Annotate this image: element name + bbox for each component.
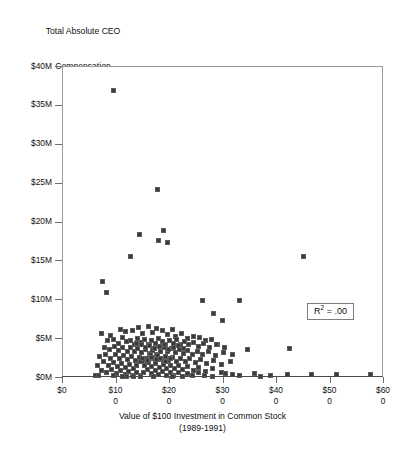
data-point [101, 359, 106, 364]
data-point [162, 342, 167, 347]
data-point [95, 363, 100, 368]
data-point [179, 331, 184, 336]
data-point [228, 359, 233, 364]
x-axis-tick-label-top: $60 [358, 385, 405, 396]
y-axis-tick-label: $40M [8, 62, 52, 71]
data-point [209, 337, 214, 342]
data-point [221, 350, 226, 355]
data-point [201, 341, 206, 346]
data-point [123, 329, 128, 334]
data-point [128, 254, 133, 259]
x-axis-tick-label-bottom: 0 [91, 396, 141, 407]
data-point [103, 352, 108, 357]
y-axis-tick-mark [55, 222, 62, 223]
data-point [111, 88, 116, 93]
data-point [102, 345, 107, 350]
data-point [142, 337, 147, 342]
x-axis-tick-label-top: $20 [144, 385, 194, 396]
data-point [220, 318, 225, 323]
data-point [139, 342, 144, 347]
data-point [245, 347, 250, 352]
y-axis-tick-mark [55, 377, 62, 378]
x-axis-tick-label-top: $10 [91, 385, 141, 396]
data-point [219, 362, 224, 367]
y-axis-tick-label: $5M [8, 334, 52, 343]
x-axis-tick-mark [223, 377, 224, 383]
x-axis-tick-mark [276, 377, 277, 383]
data-point [170, 327, 175, 332]
y-axis-tick-mark [55, 338, 62, 339]
data-point [197, 335, 202, 340]
x-axis-tick-label: $400 [251, 385, 301, 406]
y-axis-tick-mark [55, 66, 62, 67]
data-point [100, 279, 105, 284]
data-point [191, 368, 196, 373]
data-point [104, 290, 109, 295]
y-axis-tick-label: $25M [8, 178, 52, 187]
x-axis-tick-label: $200 [144, 385, 194, 406]
data-point [165, 332, 170, 337]
y-axis-tick-label: $35M [8, 100, 52, 109]
data-point [206, 349, 211, 354]
data-point [165, 240, 170, 245]
x-axis-tick-label-top: $30 [198, 385, 248, 396]
x-axis-tick-label: $0 [37, 385, 87, 396]
y-axis-tick-mark [55, 183, 62, 184]
x-axis-label-line-2: (1989-1991) [0, 423, 405, 435]
data-point [104, 370, 109, 375]
data-point [118, 327, 123, 332]
x-axis-tick-mark [169, 377, 170, 383]
data-point [230, 352, 235, 357]
y-axis-tick-mark [55, 144, 62, 145]
data-point [211, 358, 216, 363]
data-point [181, 346, 186, 351]
r-squared-value: = .00 [324, 306, 347, 316]
data-point [137, 232, 142, 237]
y-axis-tick-label: $15M [8, 256, 52, 265]
data-point [156, 238, 161, 243]
data-point [136, 325, 141, 330]
data-point [97, 354, 102, 359]
data-point [99, 331, 104, 336]
x-axis-tick-label-top: $50 [305, 385, 355, 396]
y-axis-tick-label: $10M [8, 295, 52, 304]
data-point [287, 346, 292, 351]
data-point [200, 298, 205, 303]
data-point [134, 341, 139, 346]
x-axis-tick-label-bottom: 0 [251, 396, 301, 407]
data-point [198, 357, 203, 362]
data-point [204, 361, 209, 366]
scatter-chart-figure: Total Absolute CEO Compensation 1989-199… [0, 0, 405, 452]
data-point [196, 370, 201, 375]
data-point [237, 298, 242, 303]
data-point [196, 365, 201, 370]
data-point [168, 356, 173, 361]
data-point [161, 228, 166, 233]
data-point [187, 356, 192, 361]
data-point [146, 324, 151, 329]
r-squared-annotation: R2 = .00 [307, 303, 354, 320]
plot-area [62, 66, 383, 377]
x-axis-tick-label-top: $40 [251, 385, 301, 396]
data-point [140, 331, 145, 336]
x-axis-tick-mark [62, 377, 63, 383]
data-point [130, 328, 135, 333]
x-axis-tick-mark [330, 377, 331, 383]
data-point [211, 311, 216, 316]
x-axis-tick-label: $600 [358, 385, 405, 406]
x-axis-tick-label: $100 [91, 385, 141, 406]
x-axis-tick-label: $500 [305, 385, 355, 406]
y-axis-tick-mark [55, 299, 62, 300]
y-axis-tick-mark [55, 260, 62, 261]
data-point [99, 368, 104, 373]
x-axis-tick-label-bottom: 0 [358, 396, 405, 407]
data-point [191, 334, 196, 339]
x-axis-label: Value of $100 Investment in Common Stock… [0, 411, 405, 434]
x-axis-tick-label-bottom: 0 [198, 396, 248, 407]
y-axis-tick-label: $30M [8, 139, 52, 148]
y-axis-tick-label: $20M [8, 217, 52, 226]
x-axis-tick-mark [383, 377, 384, 383]
x-axis-tick-label: $300 [198, 385, 248, 406]
data-point [143, 345, 148, 350]
x-axis-tick-mark [116, 377, 117, 383]
